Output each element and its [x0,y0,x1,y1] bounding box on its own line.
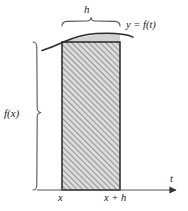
hatched-rectangle [62,42,120,190]
fx-brace [33,42,41,190]
label-curve-equation: y = f(t) [126,20,156,31]
label-h: h [84,4,90,15]
label-x-left: x [58,193,63,204]
h-brace [62,18,120,26]
label-x-plus-h: x + h [104,193,126,204]
label-rectangle-height: f(x) [4,108,19,119]
label-t-axis: t [170,174,173,185]
figure-svg [0,0,188,211]
figure-container: h y = f(t) f(x) x x + h t [0,0,188,211]
